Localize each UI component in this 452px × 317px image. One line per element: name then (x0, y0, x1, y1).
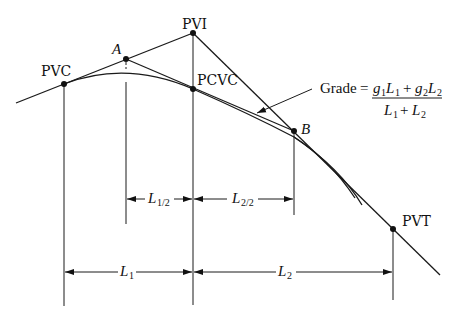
dim-l1-label: L (119, 263, 128, 279)
dimension-full-lengths: L 1 L 2 (65, 263, 392, 281)
a-point (123, 56, 129, 62)
grade-pointer-arrow (257, 89, 312, 113)
den-L1-sub: 1 (393, 109, 398, 120)
num-g1: g (373, 80, 381, 96)
dim-l1-half-label: L (147, 190, 156, 206)
b-label: B (301, 121, 310, 137)
points (61, 30, 396, 232)
pvi-label: PVI (182, 16, 207, 32)
pvt-label: PVT (402, 213, 432, 229)
dimension-half-lengths: L 1/2 L 2/2 (127, 190, 293, 208)
num-plus: + (403, 80, 411, 96)
grade-formula: Grade = g 1 L 1 + g 2 L 2 L 1 + L 2 (320, 80, 442, 120)
dim-l2-half-label: L (231, 190, 240, 206)
den-plus: + (400, 102, 408, 118)
pvc-label: PVC (41, 63, 71, 79)
num-L1-sub: 1 (395, 87, 400, 98)
pcvc-label: PCVC (197, 72, 238, 88)
dim-l1-sub: 1 (129, 270, 134, 281)
num-L1: L (385, 80, 394, 96)
den-L2: L (411, 102, 420, 118)
den-L1: L (383, 102, 392, 118)
formula-equals: = (360, 80, 368, 96)
vertical-curve (64, 73, 355, 198)
dim-l2-sub: 2 (287, 270, 292, 281)
vertical-curve-diagram: PVC A PVI PCVC B PVT Grade = g 1 L 1 + g… (0, 0, 452, 317)
num-L2-sub: 2 (437, 87, 442, 98)
intermediate-tangent (126, 59, 294, 131)
dim-l2-label: L (277, 263, 286, 279)
num-g2: g (415, 80, 423, 96)
num-L2: L (427, 80, 436, 96)
formula-lhs: Grade (320, 80, 357, 96)
tangent-lines (16, 33, 440, 275)
dim-l1-half-sub: 1/2 (157, 197, 170, 208)
b-point (291, 128, 297, 134)
pvt-point (390, 226, 396, 232)
pcvc-point (190, 86, 196, 92)
den-L2-sub: 2 (421, 109, 426, 120)
dim-l2-half-sub: 2/2 (241, 197, 254, 208)
vertical-curve-tail (294, 137, 362, 205)
a-label: A (111, 41, 122, 57)
pvc-point (61, 81, 67, 87)
